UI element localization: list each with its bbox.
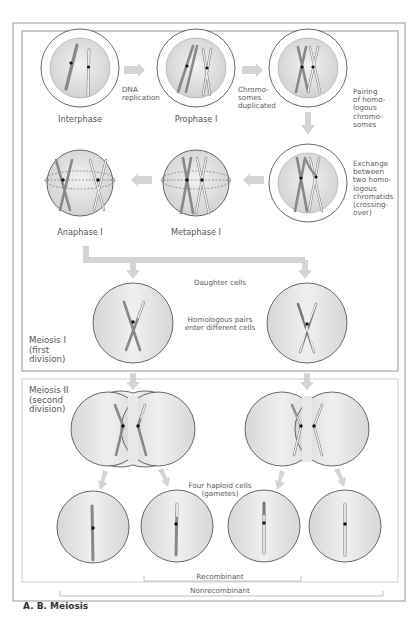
cell-pairing: [269, 29, 347, 107]
stage-label-interphase: Interphase: [45, 115, 115, 123]
section-label-meiosis1: Meiosis I (first division): [29, 336, 66, 365]
label-exchange: Exchange between two homo- logous chroma…: [353, 160, 393, 217]
cell-gamete-1: [57, 491, 129, 563]
stage-label-metaphase: Metaphase I: [161, 228, 231, 236]
stage-label-prophase: Prophase I: [161, 115, 231, 123]
cell-daughter-right: [267, 283, 347, 363]
cell-dividing-right: [245, 392, 369, 466]
label-chromosomes-duplicated: Chromo- somes duplicated: [238, 86, 276, 111]
cell-gamete-4: [309, 490, 381, 562]
stage-label-anaphase: Anaphase I: [45, 228, 115, 236]
label-pairing: Pairing of homo- logous chromo- somes: [353, 88, 385, 129]
cell-interphase: [41, 29, 119, 107]
label-gametes: Four haploid cells (gametes): [180, 482, 260, 498]
cell-prophase: [157, 29, 235, 107]
label-nonrecombinant: Nonrecombinant: [180, 587, 260, 595]
cell-gamete-2: [141, 490, 213, 562]
label-homologous-pairs: Homologous pairs enter different cells: [180, 316, 260, 332]
cell-daughter-left: [93, 283, 173, 363]
figure-caption: A. B. Meiosis: [23, 602, 88, 610]
label-recombinant: Recombinant: [180, 573, 260, 581]
cell-dividing-left: [71, 391, 195, 467]
label-daughter-cells: Daughter cells: [180, 279, 260, 287]
cell-crossing-over: [269, 144, 347, 222]
section-label-meiosis2: Meiosis II (second division): [29, 386, 69, 415]
label-dna-replication: DNA replication: [122, 86, 160, 102]
cell-gamete-3: [228, 490, 300, 562]
